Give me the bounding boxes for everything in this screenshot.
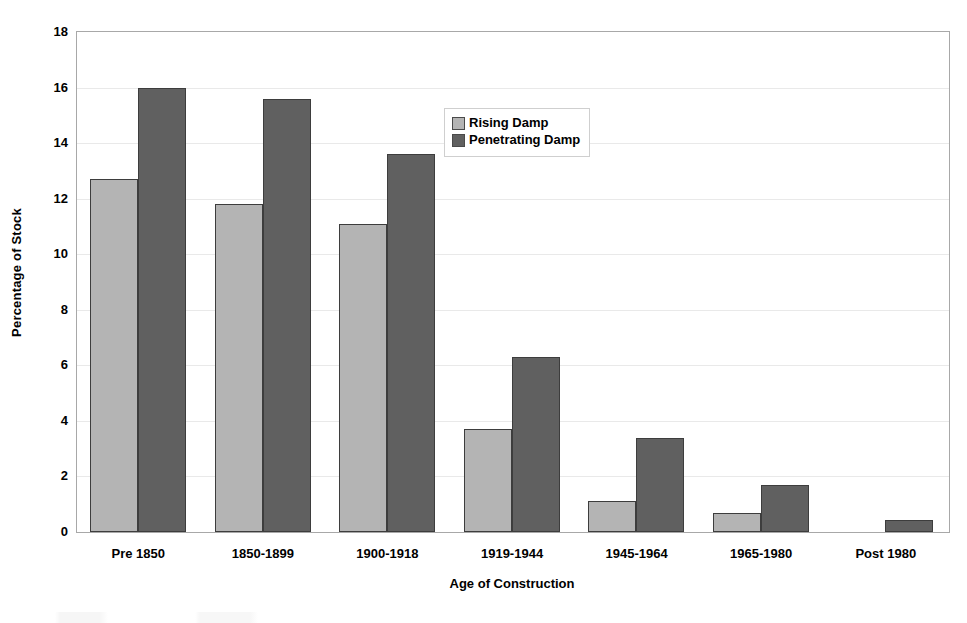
y-axis-tick-labels: 024681012141618 (28, 31, 68, 531)
y-axis-tick-label: 14 (28, 136, 68, 149)
bar-group (451, 32, 576, 532)
bar-group (824, 32, 949, 532)
y-axis-tick-label: 12 (28, 191, 68, 204)
bar-0 (464, 429, 512, 532)
legend-swatch-icon (452, 117, 465, 130)
y-axis-tick-label: 0 (28, 525, 68, 538)
bar-group (575, 32, 700, 532)
y-axis-tick-label: 2 (28, 469, 68, 482)
bar-1 (761, 485, 809, 532)
bar-chart-figure: Percentage of Stock 024681012141618 Risi… (0, 0, 967, 623)
bar-0 (215, 204, 263, 532)
bar-group (77, 32, 202, 532)
bar-group (700, 32, 825, 532)
plot-area (76, 31, 950, 533)
x-axis-tick-label: 1965-1980 (699, 546, 824, 561)
y-axis-tick-label: 8 (28, 302, 68, 315)
scan-artifact (0, 612, 330, 623)
bars-layer (77, 32, 949, 532)
bar-group (326, 32, 451, 532)
legend-swatch-icon (452, 134, 465, 147)
x-axis-tick-label: Post 1980 (823, 546, 948, 561)
legend-entry: Penetrating Damp (452, 132, 580, 148)
y-axis-tick-label: 16 (28, 80, 68, 93)
bar-1 (387, 154, 435, 532)
x-axis-tick-labels: Pre 18501850-18991900-19181919-19441945-… (76, 546, 948, 561)
bar-0 (588, 501, 636, 532)
bar-1 (885, 520, 933, 533)
x-axis-tick-label: 1900-1918 (325, 546, 450, 561)
legend-label: Rising Damp (469, 115, 548, 131)
y-axis-tick-label: 6 (28, 358, 68, 371)
bar-1 (138, 88, 186, 532)
x-axis-tick-label: 1919-1944 (450, 546, 575, 561)
y-axis-tick-label: 18 (28, 25, 68, 38)
y-axis-tick-label: 10 (28, 247, 68, 260)
x-axis-tick-label: 1945-1964 (574, 546, 699, 561)
y-axis-title-text: Percentage of Stock (9, 208, 24, 337)
y-axis-tick-label: 4 (28, 413, 68, 426)
x-axis-title: Age of Construction (76, 576, 948, 591)
bar-0 (90, 179, 138, 532)
x-axis-tick-label: 1850-1899 (201, 546, 326, 561)
bar-group (202, 32, 327, 532)
legend-label: Penetrating Damp (469, 132, 580, 148)
bar-1 (263, 99, 311, 532)
bar-0 (339, 224, 387, 532)
bar-0 (713, 513, 761, 532)
bar-1 (636, 438, 684, 532)
bar-1 (512, 357, 560, 532)
chart-legend: Rising DampPenetrating Damp (444, 108, 590, 157)
y-axis-title: Percentage of Stock (6, 0, 26, 545)
x-axis-tick-label: Pre 1850 (76, 546, 201, 561)
legend-entry: Rising Damp (452, 115, 580, 131)
